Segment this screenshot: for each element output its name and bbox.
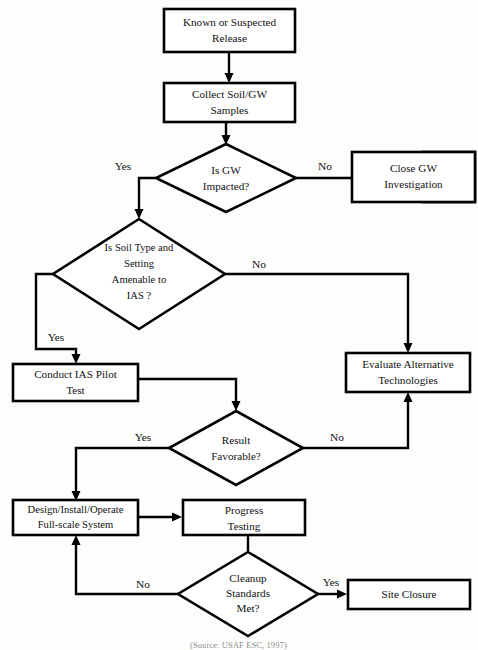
node-design-install-line2: Full-scale System bbox=[38, 519, 114, 530]
node-result-favorable: Result Favorable? bbox=[169, 411, 303, 485]
flowchart-diagram: Known or Suspected Release Collect Soil/… bbox=[0, 0, 478, 650]
node-gw-impacted-line1: Is GW bbox=[211, 164, 241, 176]
node-soil-type-line1: Is Soil Type and bbox=[105, 242, 175, 253]
connector-soil-no-to-evaluate-alternatives bbox=[225, 274, 413, 353]
node-progress-testing: Progress Testing bbox=[183, 500, 305, 535]
connector-design-install-to-progress-testing bbox=[138, 513, 182, 522]
node-gw-impacted: Is GW Impacted? bbox=[156, 144, 296, 212]
node-collect-samples-line2: Samples bbox=[211, 104, 249, 116]
node-design-install-line1: Design/Install/Operate bbox=[28, 504, 124, 515]
node-evaluate-line2: Technologies bbox=[378, 374, 438, 386]
node-soil-type-line3: Amenable to bbox=[112, 274, 166, 285]
node-design-install-operate: Design/Install/Operate Full-scale System bbox=[13, 500, 138, 535]
node-pilot-test-line2: Test bbox=[66, 384, 85, 396]
connector-cleanup-yes-to-site-closure bbox=[318, 590, 347, 599]
node-cleanup-line3: Met? bbox=[237, 602, 260, 614]
node-soil-type-line2: Setting bbox=[124, 258, 155, 269]
node-soil-type-amenable: Is Soil Type and Setting Amenable to IAS… bbox=[53, 219, 225, 329]
node-collect-samples: Collect Soil/GW Samples bbox=[164, 83, 295, 122]
node-collect-samples-line1: Collect Soil/GW bbox=[192, 88, 267, 100]
edge-label-cleanup-no: No bbox=[136, 578, 150, 590]
edge-label-result-yes: Yes bbox=[135, 431, 152, 443]
node-evaluate-line1: Evaluate Alternative bbox=[362, 358, 454, 370]
edge-label-result-no: No bbox=[330, 431, 344, 443]
edge-label-soil-no: No bbox=[252, 258, 266, 270]
node-close-gw-line2: Investigation bbox=[384, 178, 443, 190]
flowchart-canvas: Known or Suspected Release Collect Soil/… bbox=[0, 0, 478, 650]
figure-source-caption: (Source: USAF ESC, 1997) bbox=[190, 640, 478, 650]
connector-known-release-to-collect-samples bbox=[225, 52, 234, 83]
connector-cleanup-no-to-design-install bbox=[72, 535, 179, 594]
node-progress-testing-line2: Testing bbox=[228, 520, 261, 532]
node-gw-impacted-line2: Impacted? bbox=[203, 180, 250, 192]
node-close-gw-investigation: Close GW Investigation bbox=[352, 152, 475, 202]
node-soil-type-line4: IAS ? bbox=[127, 290, 152, 301]
node-result-favorable-line2: Favorable? bbox=[211, 450, 261, 462]
node-cleanup-standards: Cleanup Standards Met? bbox=[178, 552, 318, 636]
edge-label-gw-yes: Yes bbox=[115, 160, 132, 172]
node-conduct-pilot-test: Conduct IAS Pilot Test bbox=[13, 364, 138, 401]
node-known-release-line1: Known or Suspected bbox=[183, 16, 277, 28]
node-cleanup-line1: Cleanup bbox=[229, 572, 267, 584]
node-site-closure: Site Closure bbox=[348, 580, 470, 609]
connector-pilot-test-to-result-favorable bbox=[138, 379, 241, 411]
edge-label-cleanup-yes: Yes bbox=[323, 576, 340, 588]
edge-label-gw-no: No bbox=[318, 160, 332, 172]
node-cleanup-line2: Standards bbox=[226, 587, 270, 599]
connector-result-yes-to-design-install bbox=[72, 448, 170, 501]
connector-collect-samples-to-gw-impacted bbox=[222, 122, 231, 145]
edge-label-soil-yes: Yes bbox=[48, 331, 65, 343]
node-evaluate-alternatives: Evaluate Alternative Technologies bbox=[346, 353, 470, 392]
node-result-favorable-line1: Result bbox=[222, 434, 251, 446]
node-site-closure-line1: Site Closure bbox=[381, 588, 436, 600]
node-close-gw-line1: Close GW bbox=[390, 162, 437, 174]
connector-gw-yes-to-soil-type bbox=[135, 178, 157, 219]
node-known-release-line2: Release bbox=[212, 32, 247, 44]
node-pilot-test-line1: Conduct IAS Pilot bbox=[34, 368, 118, 380]
node-progress-testing-line1: Progress bbox=[225, 504, 264, 516]
node-known-release: Known or Suspected Release bbox=[164, 9, 295, 52]
connector-result-no-to-evaluate-alternatives bbox=[303, 392, 413, 448]
